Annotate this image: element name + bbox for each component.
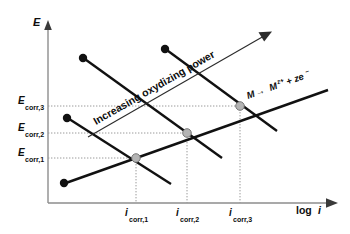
equation-electron-charge: −	[304, 67, 310, 75]
trend-arrow-head	[259, 32, 273, 42]
y-tick-label-ecorr1-base: E	[18, 147, 25, 158]
x-axis-arrowhead	[326, 198, 338, 208]
reaction-equation-group: M → M z+ + ze −	[245, 67, 312, 101]
evans-diagram-canvas: E log i	[0, 0, 350, 234]
start-dot-cathodic-3	[161, 45, 169, 53]
trend-label: Increasing oxydizing power	[91, 48, 216, 127]
y-tick-label-ecorr3-sub: corr,3	[25, 104, 44, 112]
x-axis-label-log: log	[296, 204, 312, 216]
anodic-dissolution-line	[63, 90, 328, 184]
y-axis-label: E	[33, 16, 41, 28]
x-tick-label-icorr1-sub: corr,1	[129, 216, 148, 224]
y-tick-label-ecorr3: E corr,3	[18, 95, 44, 112]
y-tick-label-ecorr2: E corr,2	[18, 122, 44, 139]
y-tick-label-ecorr2-sub: corr,2	[25, 131, 44, 139]
x-tick-label-icorr3-sub: corr,3	[233, 216, 252, 224]
equation-electrons: ze	[291, 70, 306, 84]
y-tick-label-ecorr2-base: E	[18, 122, 25, 133]
trend-arrow-group: Increasing oxydizing power	[88, 32, 272, 138]
x-tick-label-icorr1: i corr,1	[125, 207, 148, 224]
y-tick-label-ecorr3-base: E	[18, 95, 25, 106]
y-axis-arrowhead	[44, 20, 52, 30]
x-axis-label-i: i	[318, 204, 322, 216]
x-tick-label-icorr3: i corr,3	[229, 207, 252, 224]
y-tick-label-ecorr1: E corr,1	[18, 147, 44, 164]
x-tick-label-icorr2: i corr,2	[176, 207, 199, 224]
x-tick-label-icorr2-sub: corr,2	[180, 216, 199, 224]
y-tick-label-ecorr1-sub: corr,1	[25, 156, 44, 164]
start-dot-cathodic-2	[79, 54, 87, 62]
x-tick-label-icorr1-base: i	[125, 207, 128, 218]
x-tick-label-icorr2-base: i	[176, 207, 179, 218]
x-tick-label-icorr3-base: i	[229, 207, 232, 218]
corrosion-point-3-marker	[236, 102, 245, 111]
evans-diagram-figure: E log i	[0, 0, 350, 234]
x-axis-label: log i	[296, 204, 322, 216]
equation-arrow-icon: →	[253, 84, 266, 98]
start-dot-anodic	[60, 179, 68, 187]
axes-group	[44, 20, 338, 208]
corrosion-point-1-marker	[132, 154, 141, 163]
start-dot-cathodic-1	[63, 114, 71, 122]
corrosion-point-2-marker	[183, 129, 192, 138]
